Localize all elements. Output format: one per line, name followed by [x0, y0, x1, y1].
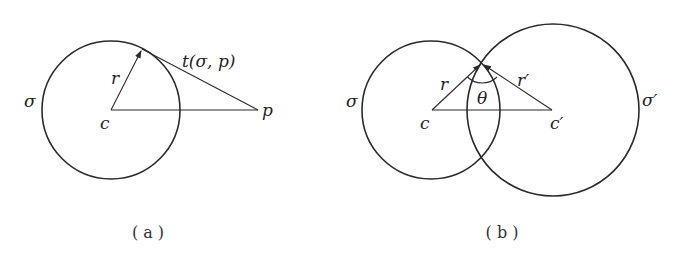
label-theta: θ [477, 88, 487, 108]
figure-a: σ r c p t(σ, p) ( a ) [24, 41, 273, 242]
label-sigma: σ [24, 91, 36, 111]
label-c: c [100, 113, 110, 133]
label-p: p [262, 100, 273, 120]
label-r: r [111, 68, 120, 88]
label-r: r [440, 74, 449, 94]
figure-b: σ σ′ r r′ θ c c′ ( b ) [346, 24, 658, 242]
label-tangent: t(σ, p) [182, 51, 235, 71]
diagram-canvas: σ r c p t(σ, p) ( a ) σ σ′ r r′ θ c c′ (… [0, 0, 675, 264]
label-r-prime: r′ [517, 70, 529, 90]
label-c-prime: c′ [550, 113, 564, 133]
caption-a: ( a ) [132, 223, 164, 242]
label-sigma-prime: σ′ [642, 90, 658, 110]
label-sigma: σ [346, 91, 358, 111]
label-c: c [420, 113, 430, 133]
caption-b: ( b ) [486, 223, 519, 242]
